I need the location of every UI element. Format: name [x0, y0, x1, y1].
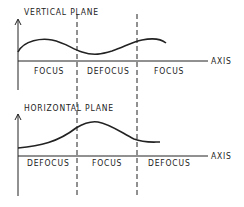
- vertical-region-label-2: DEFOCUS: [87, 66, 130, 76]
- vertical-plane-title: VERTICAL PLANE: [24, 7, 99, 17]
- focusing-diagram: VERTICAL PLANE AXIS FOCUS DEFOCUS FOCUS …: [0, 0, 244, 207]
- horizontal-plane-beam-curve: [18, 122, 160, 148]
- horizontal-plane-panel: HORIZONTAL PLANE AXIS DEFOCUS FOCUS DEFO…: [15, 103, 232, 196]
- horizontal-plane-axis-label: AXIS: [211, 151, 232, 161]
- vertical-plane-axis-label: AXIS: [211, 56, 232, 66]
- horizontal-region-label-3: DEFOCUS: [148, 158, 191, 168]
- vertical-region-label-1: FOCUS: [34, 66, 64, 76]
- horizontal-region-label-1: DEFOCUS: [27, 158, 70, 168]
- vertical-plane-beam-curve: [18, 39, 166, 54]
- horizontal-plane-title: HORIZONTAL PLANE: [24, 103, 114, 113]
- vertical-region-label-3: FOCUS: [154, 66, 184, 76]
- horizontal-region-label-2: FOCUS: [92, 158, 122, 168]
- vertical-plane-panel: VERTICAL PLANE AXIS FOCUS DEFOCUS FOCUS: [15, 7, 232, 90]
